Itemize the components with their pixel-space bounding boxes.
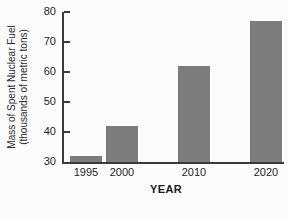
- y-tick-label-30: 30: [24, 155, 56, 168]
- y-tick-mark: [64, 11, 70, 13]
- bar-2010: [178, 66, 210, 162]
- y-tick-label-50: 50: [24, 95, 56, 108]
- y-tick-mark: [64, 131, 70, 133]
- bar-2020: [250, 21, 282, 162]
- y-tick-mark: [64, 101, 70, 103]
- y-tick-label-70: 70: [24, 35, 56, 48]
- plot-area: [62, 12, 284, 164]
- y-tick-mark: [64, 41, 70, 43]
- y-tick-label-80: 80: [24, 5, 56, 18]
- x-tick-label-2000: 2000: [100, 166, 144, 179]
- bar-2000: [106, 126, 138, 162]
- bar-chart-figure: Mass of Spent Nuclear Fuel (thousands of…: [0, 0, 288, 218]
- x-tick-label-2020: 2020: [244, 166, 288, 179]
- y-tick-label-40: 40: [24, 125, 56, 138]
- x-tick-label-2010: 2010: [172, 166, 216, 179]
- y-axis-title-line1: Mass of Spent Nuclear Fuel: [6, 25, 18, 148]
- y-tick-label-60: 60: [24, 65, 56, 78]
- x-axis-title: YEAR: [141, 183, 191, 195]
- y-tick-mark: [64, 71, 70, 73]
- bar-1995: [70, 156, 102, 162]
